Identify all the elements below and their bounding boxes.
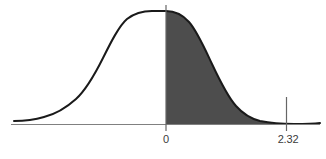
tick-label-zero: 0 [163,133,169,145]
normal-curve-figure: 0 2.32 [0,0,326,159]
tick-label-critical: 2.32 [278,133,299,145]
shaded-region-0-to-2.32 [166,11,286,124]
